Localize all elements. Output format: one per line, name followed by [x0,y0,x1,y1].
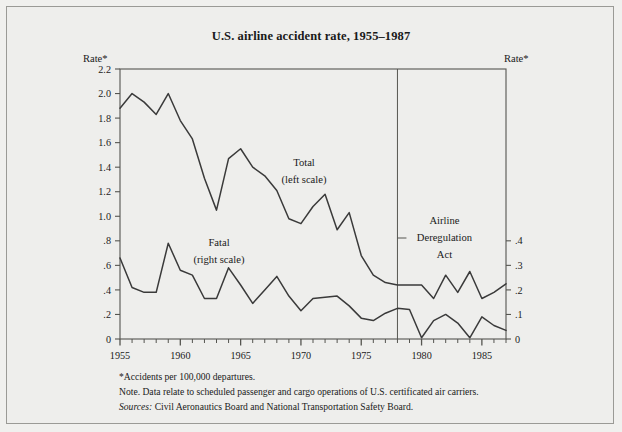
footnote-sources: Sources: Civil Aeronautics Board and Nat… [119,401,413,412]
left-axis-tick-label: 1.6 [98,137,111,148]
footnote-data-note: Note. Data relate to scheduled passenger… [119,386,479,397]
left-axis-tick-label: .2 [103,309,111,320]
x-axis-tick-label: 1975 [351,350,371,361]
x-axis-tick-label: 1960 [170,350,190,361]
deregulation-label-line-1: Airline [429,215,459,226]
left-axis-tick-label: 0 [106,334,111,345]
deregulation-label-line-3: Act [437,249,452,260]
left-axis-tick-label: 2.0 [98,88,111,99]
x-axis-tick-label: 1985 [472,350,492,361]
sources-label: Sources: [119,401,152,412]
sources-text: Civil Aeronautics Board and National Tra… [155,401,413,412]
left-axis-tick-label: 1.4 [98,162,111,173]
chart-plot-area: 0.2.4.6.81.01.21.41.61.82.02.20.1.2.3.41… [7,7,615,425]
series-sublabel-total: (left scale) [282,174,327,186]
right-axis-tick-label: .3 [515,260,523,271]
x-axis-tick-label: 1955 [110,350,130,361]
x-axis-tick-label: 1970 [291,350,311,361]
x-axis-tick-label: 1980 [411,350,431,361]
footnote-rate-definition: *Accidents per 100,000 departures. [119,371,255,382]
right-axis-tick-label: .4 [515,235,523,246]
left-axis-tick-label: .8 [103,235,111,246]
right-axis-tick-label: 0 [515,334,520,345]
series-label-fatal: Fatal [208,237,229,248]
left-axis-tick-label: 1.2 [98,186,111,197]
left-axis-tick-label: 1.0 [98,211,111,222]
series-label-total: Total [293,157,315,168]
left-axis-tick-label: .4 [103,285,111,296]
series-line-total [120,94,506,299]
left-axis-tick-label: 1.8 [98,113,111,124]
series-sublabel-fatal: (right scale) [194,254,245,266]
figure-panel: U.S. airline accident rate, 1955–1987 Ra… [6,6,614,424]
right-axis-tick-label: .1 [515,309,523,320]
x-axis-tick-label: 1965 [230,350,250,361]
left-axis-tick-label: .6 [103,260,111,271]
deregulation-label-line-2: Deregulation [417,232,473,243]
right-axis-tick-label: .2 [515,285,523,296]
left-axis-tick-label: 2.2 [98,64,111,75]
